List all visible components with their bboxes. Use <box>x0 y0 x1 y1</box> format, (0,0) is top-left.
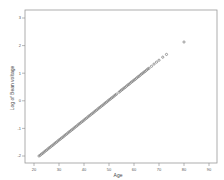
x-tick-label: 80 <box>182 167 187 172</box>
x-tick-label: 90 <box>207 167 212 172</box>
y-tick-label: 0 <box>19 98 22 103</box>
scatter-chart: 2030405060708090 -2-10123 Age Log of Bea… <box>0 0 224 180</box>
y-axis: -2-10123 <box>17 15 25 158</box>
y-tick-label: -2 <box>17 153 21 158</box>
y-tick-label: 3 <box>19 15 22 20</box>
x-tick-label: 70 <box>157 167 162 172</box>
plot-frame <box>25 10 217 163</box>
y-tick-label: 2 <box>19 43 22 48</box>
y-tick-label: 1 <box>19 71 22 76</box>
x-tick-label: 50 <box>107 167 112 172</box>
chart-canvas: 2030405060708090 -2-10123 Age Log of Bea… <box>0 0 224 180</box>
x-tick-label: 60 <box>132 167 137 172</box>
y-tick-label: -1 <box>17 126 21 131</box>
x-tick-label: 30 <box>57 167 62 172</box>
x-axis-label: Age <box>114 172 123 178</box>
x-tick-label: 40 <box>82 167 87 172</box>
x-axis: 2030405060708090 <box>32 163 212 172</box>
y-axis-label: Log of Bean voltage <box>9 66 15 111</box>
x-tick-label: 20 <box>32 167 37 172</box>
